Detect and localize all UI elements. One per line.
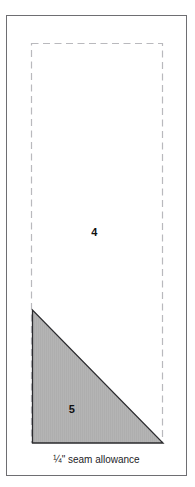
quilt-piece-diagram: 4 5 ¼" seam allowance <box>0 0 195 487</box>
seam-allowance-caption: ¼" seam allowance <box>7 453 186 467</box>
triangle-piece-shape <box>33 310 164 443</box>
piece-label-4: 4 <box>0 227 189 238</box>
piece-label-5: 5 <box>32 404 112 415</box>
